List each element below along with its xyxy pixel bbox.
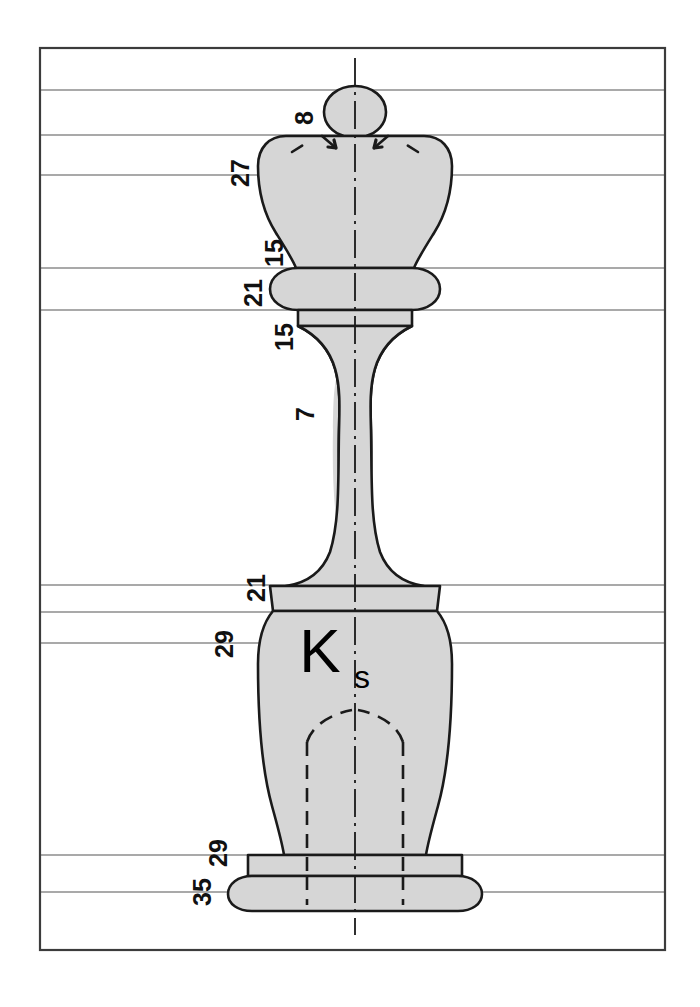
body-bell-shape — [258, 611, 452, 855]
dimension-plinth-width: 29 — [204, 839, 232, 867]
part-label-subscript: s — [354, 659, 370, 695]
drawing-page: 8 27 15 21 15 7 21 29 29 35 K s — [0, 0, 700, 1007]
dimension-ball-diameter: 8 — [290, 111, 318, 125]
dimension-shoulder-width: 21 — [242, 574, 270, 602]
dimension-crown-width: 27 — [226, 159, 254, 187]
technical-drawing-canvas: 8 27 15 21 15 7 21 29 29 35 K s — [0, 0, 700, 1007]
dimension-neck-lower: 15 — [270, 323, 298, 351]
dimension-neck-upper: 15 — [260, 239, 288, 267]
part-label-symbol: K — [299, 616, 340, 685]
dimension-collar-width: 21 — [239, 279, 267, 307]
dimension-stem-width: 7 — [291, 407, 319, 421]
dimension-base-width: 35 — [188, 878, 216, 906]
dimension-body-width: 29 — [210, 630, 238, 658]
